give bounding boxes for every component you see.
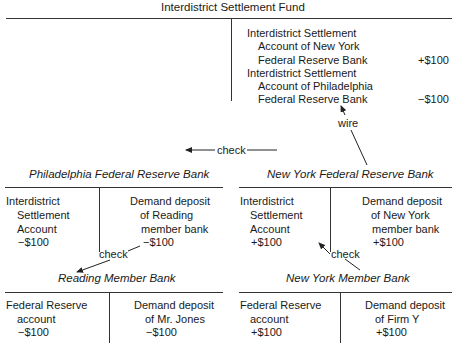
wire-arrow-icon (341, 106, 345, 115)
check-arrow-right-icon (319, 243, 330, 254)
check-arrow-left-icon (77, 260, 110, 272)
flow-arrows (0, 0, 458, 356)
wire-line (351, 130, 367, 165)
check-line-right (345, 259, 360, 270)
check-line-left (128, 246, 140, 251)
